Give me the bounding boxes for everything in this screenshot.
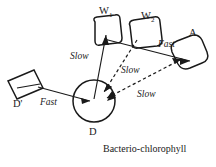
edge-label-slow-d-a: Slow [137, 89, 156, 99]
edge-label-fast-dprime-d: Fast [39, 97, 57, 107]
figure-caption: Bacterio-chlorophyll [103, 143, 187, 154]
arrow-head-into-d-from-dprime [81, 98, 90, 104]
node-label-d: D [89, 126, 97, 137]
node-label-dprime: D' [13, 98, 23, 109]
node-a[interactable] [171, 35, 208, 69]
energy-transfer-diagram: W1 W2 A D D' Fast Slow Slow Slow Fast Ba… [0, 0, 216, 167]
edge-label-slow-d-w1: Slow [70, 51, 89, 61]
node-dprime[interactable] [8, 70, 43, 99]
node-label-w2: W2 [141, 10, 155, 24]
edge-label-slow-w2-d: Slow [121, 65, 140, 75]
node-dprime-inner-line [17, 84, 40, 88]
node-a-shape [171, 35, 208, 69]
node-label-a: A [189, 27, 197, 38]
edge-label-fast-w-a: Fast [157, 39, 175, 49]
node-d[interactable] [73, 80, 116, 122]
figure-canvas: W1 W2 A D D' Fast Slow Slow Slow Fast Ba… [0, 0, 216, 167]
arrow-head-into-a-solid [180, 58, 190, 65]
